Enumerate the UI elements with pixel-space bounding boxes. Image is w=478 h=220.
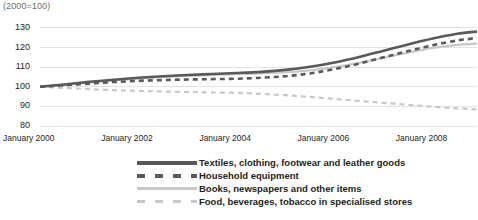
legend-item[interactable]: Household equipment: [137, 169, 467, 182]
legend-item[interactable]: Food, beverages, tobacco in specialised …: [137, 195, 467, 208]
y-axis-tick-label: 130: [4, 22, 30, 32]
series-lines: [40, 31, 477, 109]
y-axis-tick-label: 100: [4, 81, 30, 91]
y-axis-tick-label: 80: [4, 120, 30, 130]
legend-item-label: Books, newspapers and other items: [197, 183, 362, 194]
legend-swatch-solid-dark-icon: [137, 157, 197, 168]
legend-item[interactable]: Books, newspapers and other items: [137, 182, 467, 195]
legend-item[interactable]: Textiles, clothing, footwear and leather…: [137, 156, 467, 169]
x-axis-tick-label: January 2004: [199, 133, 251, 143]
legend-swatch-dash-light-icon: [137, 196, 197, 207]
x-axis-tick-label: January 2006: [298, 133, 350, 143]
legend-item-label: Food, beverages, tobacco in specialised …: [197, 196, 412, 207]
x-axis-tick-label: January 2000: [3, 133, 55, 143]
x-axis-tick-label: January 2002: [101, 133, 153, 143]
y-axis-tick-label: 110: [4, 61, 30, 71]
legend-item-label: Household equipment: [197, 170, 299, 181]
legend-item-label: Textiles, clothing, footwear and leather…: [197, 157, 405, 168]
legend-swatch-solid-light-icon: [137, 183, 197, 194]
y-axis-tick-label: 120: [4, 42, 30, 52]
legend-swatch-dash-dark-icon: [137, 170, 197, 181]
x-axis-tick-label: January 2008: [396, 133, 448, 143]
y-axis-tick-label: 90: [4, 100, 30, 110]
chart-legend: Textiles, clothing, footwear and leather…: [137, 156, 467, 208]
chart-container: (2000=100) 1301201101009080 January 2000…: [0, 0, 478, 220]
